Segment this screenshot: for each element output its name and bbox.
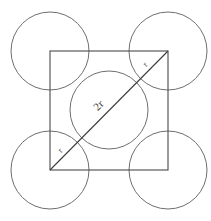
figure-background (0, 0, 211, 221)
geometry-figure: 2r r r (0, 0, 211, 221)
figure-canvas: 2r r r (0, 0, 211, 221)
